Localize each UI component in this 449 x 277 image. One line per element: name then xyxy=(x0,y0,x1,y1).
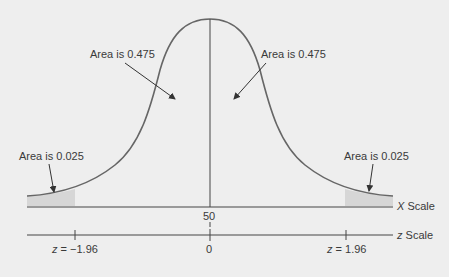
arrow-tail-left xyxy=(49,164,54,192)
x-scale-label: X Scale xyxy=(397,200,435,212)
x-center-value: 50 xyxy=(203,210,215,222)
tail-area-left-label: Area is 0.025 xyxy=(19,150,84,162)
center-area-left-label: Area is 0.475 xyxy=(90,48,155,60)
tail-area-right-label: Area is 0.025 xyxy=(344,150,409,162)
center-area-right-label: Area is 0.475 xyxy=(261,48,326,60)
arrow-center-left xyxy=(125,63,175,99)
z-center-value: 0 xyxy=(206,243,212,255)
z-scale-label: z Scale xyxy=(397,229,433,241)
z-left-tick-label: z = −1.96 xyxy=(52,243,98,255)
arrow-tail-right xyxy=(369,164,373,191)
normal-curve-diagram xyxy=(0,0,449,277)
z-right-tick-label: z = 1.96 xyxy=(327,243,366,255)
arrow-center-right xyxy=(234,63,266,99)
right-tail-shade xyxy=(345,189,393,206)
left-tail-shade xyxy=(27,189,75,206)
